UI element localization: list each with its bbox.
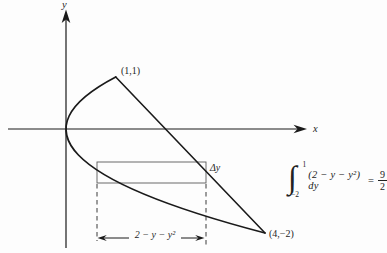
y-axis-label: y bbox=[62, 0, 67, 10]
result-numerator: 9 bbox=[378, 169, 387, 180]
result-denominator: 2 bbox=[378, 180, 387, 192]
figure-canvas: y x (1,1) (4,−2) Δy 2 − y − y² ∫ 1 −2 (2… bbox=[0, 0, 387, 253]
integral-lower-limit: −2 bbox=[291, 191, 299, 199]
strip-width-label: 2 − y − y² bbox=[124, 229, 186, 240]
integral-upper-limit: 1 bbox=[303, 161, 307, 169]
result-fraction: 9 2 bbox=[378, 169, 387, 192]
equals-sign: = bbox=[368, 175, 374, 186]
region-diagram bbox=[0, 0, 387, 253]
integral-equation: ∫ 1 −2 (2 − y − y²) dy = 9 2 bbox=[288, 160, 387, 200]
integrand-expression: (2 − y − y²) dy bbox=[308, 169, 365, 191]
integral-sign-group: ∫ 1 −2 bbox=[288, 160, 306, 200]
vertex-point-label: (1,1) bbox=[121, 65, 140, 76]
corner-point-label: (4,−2) bbox=[269, 228, 294, 239]
strip-thickness-label: Δy bbox=[210, 162, 220, 173]
x-axis-label: x bbox=[313, 123, 318, 134]
parabola-curve bbox=[66, 77, 265, 233]
boundary-line bbox=[116, 77, 265, 233]
